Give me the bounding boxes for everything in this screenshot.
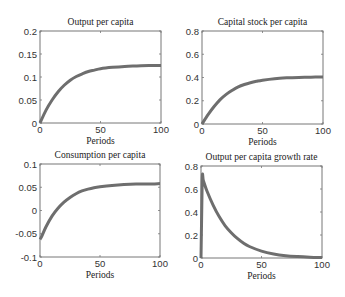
x-tick-label: 100 bbox=[314, 259, 330, 270]
x-tick-label: 50 bbox=[256, 259, 267, 270]
y-tick-label: -0.1 bbox=[21, 252, 37, 263]
x-tick-label: 0 bbox=[198, 259, 203, 270]
y-tick-label: 0.05 bbox=[19, 95, 38, 106]
x-tick-label: 0 bbox=[37, 124, 42, 135]
x-tick-label: 100 bbox=[152, 258, 168, 269]
y-tick-label: 0.6 bbox=[185, 184, 198, 195]
x-axis-label: Periods bbox=[86, 136, 115, 146]
x-tick-label: 50 bbox=[95, 124, 106, 135]
x-tick-label: 50 bbox=[95, 258, 106, 269]
chart-title: Output per capita growth rate bbox=[206, 152, 318, 162]
chart-title: Capital stock per capita bbox=[218, 17, 308, 27]
subplot-capital-stock-per-capita: Capital stock per capita00.20.40.60.8050… bbox=[186, 17, 331, 147]
chart-title: Output per capita bbox=[68, 17, 135, 27]
y-tick-label: 0.2 bbox=[185, 230, 198, 241]
y-tick-label: 0.4 bbox=[186, 72, 199, 83]
x-tick-label: 0 bbox=[199, 125, 204, 136]
chart-title: Consumption per capita bbox=[55, 150, 147, 160]
y-tick-label: 0 bbox=[32, 118, 37, 129]
y-tick-label: 0.2 bbox=[24, 26, 37, 37]
figure: Output per capita00.050.10.150.2050100Pe… bbox=[0, 0, 345, 297]
figure-canvas: Output per capita00.050.10.150.2050100Pe… bbox=[0, 0, 345, 297]
subplot-output-per-capita: Output per capita00.050.10.150.2050100Pe… bbox=[19, 17, 169, 146]
subplot-consumption-per-capita: Consumption per capita-0.1-0.0500.050.10… bbox=[15, 150, 168, 280]
y-tick-label: 0.1 bbox=[24, 72, 37, 83]
y-tick-label: 0.15 bbox=[19, 49, 38, 60]
x-tick-label: 100 bbox=[153, 124, 169, 135]
y-tick-label: 0.4 bbox=[185, 207, 198, 218]
x-axis-label: Periods bbox=[247, 271, 276, 281]
y-tick-label: 0.2 bbox=[186, 95, 199, 106]
x-axis-label: Periods bbox=[86, 270, 115, 280]
x-tick-label: 0 bbox=[37, 258, 42, 269]
x-tick-label: 50 bbox=[257, 125, 268, 136]
y-tick-label: -0.05 bbox=[15, 228, 37, 239]
axes-box bbox=[40, 31, 161, 123]
y-tick-label: 0 bbox=[194, 119, 199, 130]
x-tick-label: 100 bbox=[315, 125, 331, 136]
y-tick-label: 0 bbox=[32, 205, 37, 216]
subplot-output-growth-rate: Output per capita growth rate00.20.40.60… bbox=[185, 152, 330, 281]
y-tick-label: 0 bbox=[193, 253, 198, 264]
y-tick-label: 0.8 bbox=[185, 161, 198, 172]
y-tick-label: 0.6 bbox=[186, 49, 199, 60]
y-tick-label: 0.8 bbox=[186, 26, 199, 37]
y-tick-label: 0.1 bbox=[24, 159, 37, 170]
x-axis-label: Periods bbox=[248, 137, 277, 147]
axes-box bbox=[201, 166, 322, 258]
y-tick-label: 0.05 bbox=[19, 182, 38, 193]
